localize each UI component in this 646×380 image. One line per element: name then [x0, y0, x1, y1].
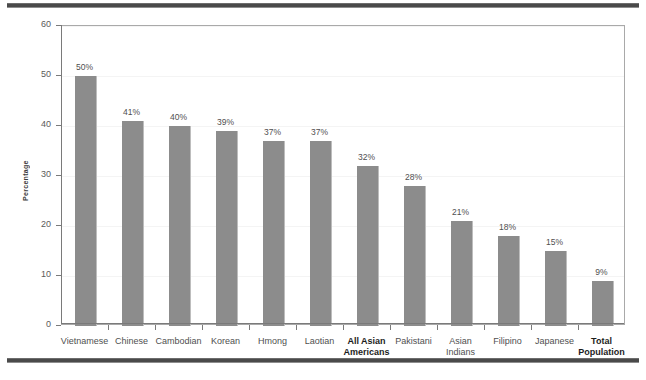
y-axis-tick-label: 30 [21, 169, 51, 179]
y-axis-tick-mark [56, 325, 61, 326]
x-axis-label-line: Hmong [258, 336, 287, 346]
x-axis-tick-mark [249, 325, 250, 330]
x-axis-label-line: Laotian [305, 336, 335, 346]
x-axis-label-line: Indians [446, 347, 475, 357]
gridline [62, 126, 624, 127]
gridline [62, 226, 624, 227]
bar-value-label: 40% [159, 112, 199, 122]
bar [357, 166, 379, 326]
x-axis-label-line: Chinese [115, 336, 148, 346]
y-axis-tick-mark [56, 125, 61, 126]
x-axis-label-line: All Asian [347, 336, 385, 346]
x-axis-tick-mark [155, 325, 156, 330]
x-axis-tick-mark [202, 325, 203, 330]
x-axis-label: TotalPopulation [574, 336, 629, 358]
bar-chart-figure: Percentage 0102030405060 VietnameseChine… [0, 0, 646, 380]
bar [592, 281, 614, 326]
x-axis-label-line: Cambodian [155, 336, 201, 346]
y-axis-tick-label: 10 [21, 269, 51, 279]
gridline [62, 26, 624, 27]
bar-value-label: 50% [65, 62, 105, 72]
y-axis-tick-mark [56, 225, 61, 226]
bar [122, 121, 144, 326]
bar-value-label: 9% [582, 267, 622, 277]
gridline [62, 76, 624, 77]
bar-value-label: 21% [441, 207, 481, 217]
x-axis-label-line: Japanese [535, 336, 574, 346]
bar [404, 186, 426, 326]
y-axis-tick-mark [56, 275, 61, 276]
x-axis-tick-mark [296, 325, 297, 330]
y-axis-tick-mark [56, 175, 61, 176]
bar-value-label: 32% [347, 152, 387, 162]
gridline [62, 176, 624, 177]
bar-value-label: 39% [206, 117, 246, 127]
x-axis-tick-mark [343, 325, 344, 330]
bar [498, 236, 520, 326]
x-axis-tick-mark [531, 325, 532, 330]
y-axis-tick-mark [56, 25, 61, 26]
x-axis-tick-mark [578, 325, 579, 330]
x-axis-tick-mark [390, 325, 391, 330]
bar-value-label: 37% [253, 127, 293, 137]
x-axis-label-line: Americans [343, 347, 389, 357]
x-axis-label-line: Pakistani [395, 336, 432, 346]
y-axis-tick-label: 20 [21, 219, 51, 229]
bar [263, 141, 285, 326]
x-axis-tick-mark [108, 325, 109, 330]
y-axis-tick-label: 0 [21, 319, 51, 329]
x-axis-label-line: Korean [211, 336, 240, 346]
bar [169, 126, 191, 326]
bar [216, 131, 238, 326]
y-axis-tick-mark [56, 75, 61, 76]
plot-area [61, 25, 625, 325]
bar-value-label: 28% [394, 172, 434, 182]
bar [310, 141, 332, 326]
bar [451, 221, 473, 326]
x-axis-label-line: Total [591, 336, 612, 346]
bar [545, 251, 567, 326]
gridline [62, 276, 624, 277]
y-axis-tick-label: 60 [21, 19, 51, 29]
x-axis-tick-mark [437, 325, 438, 330]
y-axis-tick-label: 50 [21, 69, 51, 79]
bar-value-label: 37% [300, 127, 340, 137]
y-axis-tick-label: 40 [21, 119, 51, 129]
x-axis-tick-mark [484, 325, 485, 330]
x-axis-label-line: Vietnamese [61, 336, 108, 346]
bar-value-label: 18% [488, 222, 528, 232]
bar-value-label: 41% [112, 107, 152, 117]
y-axis-title: Percentage [19, 136, 33, 226]
bar [75, 76, 97, 326]
x-axis-label-line: Filipino [493, 336, 522, 346]
bar-value-label: 15% [535, 237, 575, 247]
x-axis-label-line: Population [578, 347, 625, 357]
x-axis-label-line: Asian [449, 336, 472, 346]
